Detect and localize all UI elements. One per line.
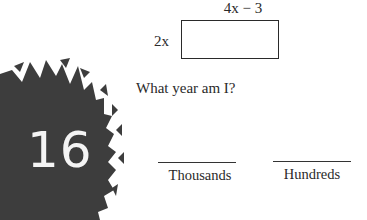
badge-number: 16	[27, 120, 93, 180]
rectangle-height-label: 2x	[154, 33, 169, 49]
rectangle-width-label: 4x − 3	[208, 0, 278, 16]
rectangle-diagram	[181, 20, 279, 59]
hundreds-label: Hundreds	[273, 165, 351, 183]
question-text: What year am I?	[136, 79, 236, 97]
thousands-answer-line[interactable]	[158, 162, 236, 163]
width-expression: 4x − 3	[224, 0, 262, 16]
thousands-label: Thousands	[158, 166, 242, 184]
hundreds-answer-line[interactable]	[273, 161, 351, 162]
height-expression: 2x	[154, 33, 169, 49]
